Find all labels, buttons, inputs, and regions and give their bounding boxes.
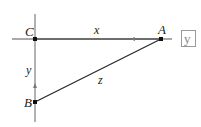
label-c: C [25,24,34,39]
arrow-up-icon [33,83,37,88]
triangle-diagram: C A B x y z y [0,0,201,127]
label-b: B [24,95,32,110]
arrow-left-icon [130,37,135,41]
label-a: A [157,22,166,37]
label-x: x [93,23,100,37]
point-b [33,100,37,104]
point-a [159,37,163,41]
label-y: y [25,63,32,77]
label-z: z [97,73,103,87]
boxed-label: y [184,31,191,46]
segment-z [35,39,161,102]
